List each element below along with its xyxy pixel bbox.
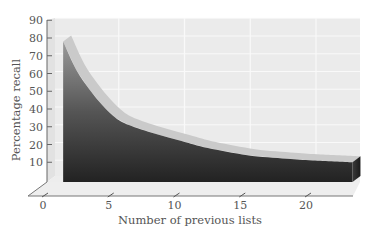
y-tick-label: 70: [29, 50, 43, 63]
recall-area-chart: 102030405060708090 05101520 Number of pr…: [0, 0, 380, 232]
y-tick-label: 50: [29, 85, 43, 98]
y-tick-label: 20: [29, 139, 43, 152]
x-axis-title: Number of previous lists: [118, 213, 262, 227]
x-tick-label: 15: [233, 199, 247, 212]
x-tick-label: 5: [105, 199, 112, 212]
x-tick-label: 0: [40, 199, 47, 212]
y-tick-label: 30: [29, 121, 43, 134]
y-tick-label: 40: [29, 103, 43, 116]
y-tick-label: 80: [29, 32, 43, 45]
y-tick-label: 90: [29, 14, 43, 27]
y-tick-label: 60: [29, 68, 43, 81]
x-tick-label: 20: [299, 199, 313, 212]
x-tick-label: 10: [168, 199, 182, 212]
y-axis-title: Percentage recall: [9, 58, 23, 161]
left-wall: [47, 18, 55, 182]
y-tick-label: 10: [29, 156, 43, 169]
